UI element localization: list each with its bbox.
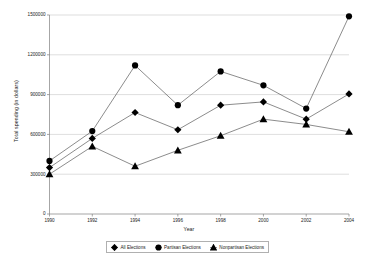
data-point-marker-triangle xyxy=(88,142,96,149)
data-point-marker-diamond xyxy=(46,164,53,171)
legend-item: Nonpartisan Elections xyxy=(210,244,264,251)
data-point-marker-circle xyxy=(260,82,266,88)
legend-marker-circle-icon xyxy=(155,244,162,251)
legend-item-label: Partisan Elections xyxy=(164,245,201,250)
data-point-marker-circle xyxy=(155,244,161,250)
y-axis-tick-label: 300000 xyxy=(2,172,46,177)
x-axis-tick-label: 1992 xyxy=(72,218,112,223)
x-axis-title: Year xyxy=(0,226,378,232)
data-point-marker-diamond xyxy=(345,90,352,97)
data-point-marker-diamond xyxy=(260,98,267,105)
x-axis-tick-label: 1996 xyxy=(158,218,198,223)
x-axis-tick-label: 1990 xyxy=(30,218,70,223)
data-point-marker-diamond xyxy=(89,135,96,142)
data-point-marker-diamond xyxy=(217,102,224,109)
data-point-marker-triangle xyxy=(46,170,54,177)
y-axis-tick-label: 1200000 xyxy=(2,52,46,57)
y-axis-title: Total spending (in dollars) xyxy=(13,51,19,171)
x-axis-tick-label: 2000 xyxy=(243,218,283,223)
chart-legend: All ElectionsPartisan ElectionsNonpartis… xyxy=(106,241,269,253)
data-point-marker-triangle xyxy=(260,115,268,122)
x-axis-tick-label: 2002 xyxy=(286,218,326,223)
data-point-marker-diamond xyxy=(174,126,181,133)
data-point-marker-circle xyxy=(218,68,224,74)
legend-marker-diamond-icon xyxy=(111,244,118,251)
y-axis-tick-label: 600000 xyxy=(2,132,46,137)
data-point-marker-circle xyxy=(46,158,52,164)
legend-item: All Elections xyxy=(111,244,146,251)
data-point-marker-triangle xyxy=(131,162,139,169)
data-point-marker-circle xyxy=(346,13,352,19)
legend-item-label: All Elections xyxy=(121,245,146,250)
data-point-marker-diamond xyxy=(131,109,138,116)
data-point-marker-triangle xyxy=(174,146,182,153)
x-axis-tick-label: 1998 xyxy=(201,218,241,223)
data-point-marker-circle xyxy=(175,102,181,108)
data-point-marker-circle xyxy=(132,62,138,68)
data-point-marker-triangle xyxy=(217,132,225,139)
legend-item-label: Nonpartisan Elections xyxy=(219,245,264,250)
data-point-marker-diamond xyxy=(111,244,118,251)
x-axis-tick-label: 1994 xyxy=(115,218,155,223)
data-point-marker-circle xyxy=(303,105,309,111)
y-axis-tick-label: 900000 xyxy=(2,92,46,97)
data-point-marker-circle xyxy=(89,128,95,134)
y-axis-tick-label: 0 xyxy=(2,211,46,216)
legend-marker-triangle-icon xyxy=(210,244,217,251)
legend-item: Partisan Elections xyxy=(155,244,201,251)
x-axis-tick-label: 2004 xyxy=(329,218,369,223)
y-axis-tick-label: 1500000 xyxy=(2,12,46,17)
chart-container: Total spending (in dollars) Year 0300000… xyxy=(0,0,378,267)
